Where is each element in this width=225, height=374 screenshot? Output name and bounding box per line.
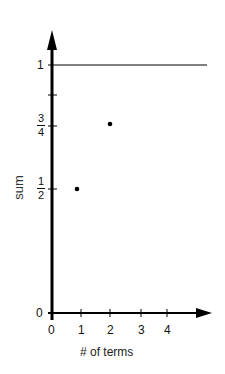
data-point [75,187,80,192]
y-axis-label: sum [11,175,26,200]
fraction-numerator: 1 [38,176,44,187]
fraction-denominator: 4 [38,127,44,138]
y-axis-arrow-icon [47,30,57,50]
x-axis-arrow-icon [196,308,212,318]
x-axis-label: # of terms [80,345,133,359]
y-tick-label-three-quarters: 3 4 [37,113,45,138]
chart-canvas [0,0,225,374]
x-tick-label-0: 0 [48,324,55,336]
y-tick-label-half: 1 2 [37,176,45,201]
fraction-numerator: 3 [38,113,44,124]
y-tick-label-1: 1 [37,59,44,71]
y-tick-label-0: 0 [36,307,43,319]
x-tick-label-4: 4 [164,324,171,336]
x-tick-label-1: 1 [78,324,85,336]
x-tick-label-2: 2 [107,324,114,336]
x-tick-label-3: 3 [138,324,145,336]
fraction-denominator: 2 [38,190,44,201]
data-point [108,122,113,127]
